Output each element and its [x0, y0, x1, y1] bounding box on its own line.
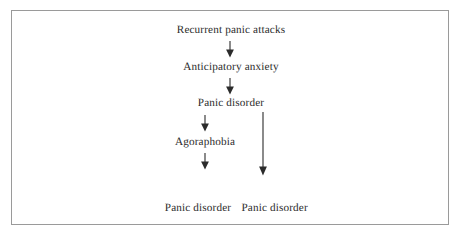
arrow-recurrent-panic-attacks-to-anticipatory-anxiety	[225, 41, 236, 58]
node-anticipatory-anxiety: Anticipatory anxiety	[183, 61, 278, 74]
arrow-panic-disorder-to-agoraphobia	[200, 115, 211, 132]
node-recurrent-panic-attacks: Recurrent panic attacks	[177, 24, 285, 37]
arrow-agoraphobia-to-panic-disorder-with-agoraphobia	[200, 153, 211, 170]
figure-canvas: Recurrent panic attacks Anticipatory anx…	[0, 0, 462, 238]
node-panic-disorder-with-agoraphobia-line-1: Panic disorder	[165, 202, 245, 215]
node-panic-disorder-with-agoraphobia: Panic disorder with agoraphobia	[165, 176, 245, 238]
arrow-panic-disorder-to-panic-disorder-without-agoraphobia	[258, 112, 269, 176]
node-panic-disorder-without-agoraphobia: Panic disorder without agoraphobia	[241, 176, 336, 238]
node-panic-disorder: Panic disorder	[198, 97, 264, 110]
arrow-anticipatory-anxiety-to-panic-disorder	[225, 78, 236, 95]
node-panic-disorder-without-agoraphobia-line-1: Panic disorder	[241, 202, 336, 215]
node-agoraphobia: Agoraphobia	[175, 136, 235, 149]
